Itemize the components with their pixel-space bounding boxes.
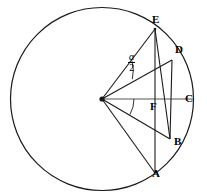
angle-denominator: 2 xyxy=(128,63,135,73)
segment-EB xyxy=(155,29,170,139)
vertex-label-F: F xyxy=(150,101,157,112)
vertex-label-C: C xyxy=(185,93,193,104)
vertex-label-E: E xyxy=(152,14,159,25)
vertex-label-A: A xyxy=(152,168,160,179)
vertex-label-D: D xyxy=(175,44,183,55)
lower-angle-arc xyxy=(130,99,134,115)
geometry-canvas xyxy=(0,0,207,193)
segment-OB xyxy=(102,99,170,139)
angle-label-alpha-half: α 2 xyxy=(128,52,135,73)
vertex-label-B: B xyxy=(174,136,181,147)
angle-numerator: α xyxy=(128,52,135,62)
vertex-dot-E xyxy=(154,28,157,31)
segment-OA xyxy=(102,99,155,173)
center-point-marker xyxy=(99,96,104,101)
geometry-diagram: A B C D E F α 2 xyxy=(0,0,207,193)
